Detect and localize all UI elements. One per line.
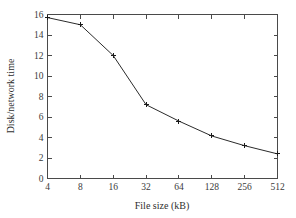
x-tick-label: 8 xyxy=(78,182,83,192)
y-tick-label: 14 xyxy=(34,30,44,40)
data-line xyxy=(48,18,278,154)
x-tick-label: 128 xyxy=(205,182,220,192)
y-tick-label: 10 xyxy=(34,71,44,81)
y-tick-label: 2 xyxy=(39,153,44,163)
y-tick-label: 12 xyxy=(34,51,44,61)
y-tick-label: 4 xyxy=(39,133,44,143)
x-tick-label: 16 xyxy=(108,182,118,192)
y-tick-label: 0 xyxy=(39,174,44,184)
plot-frame xyxy=(48,15,278,179)
x-axis-ticks xyxy=(48,15,278,179)
data-series-group xyxy=(48,18,278,154)
chart-page: 48163264128256512 0246810121416 File siz… xyxy=(0,0,296,218)
line-chart: 48163264128256512 0246810121416 File siz… xyxy=(0,0,296,218)
y-axis-tick-labels: 0246810121416 xyxy=(34,10,44,184)
y-tick-label: 8 xyxy=(39,92,44,102)
plot-box xyxy=(48,15,278,179)
y-tick-label: 6 xyxy=(39,112,44,122)
y-tick-label: 16 xyxy=(34,10,44,20)
x-tick-label: 256 xyxy=(238,182,253,192)
x-axis-tick-labels: 48163264128256512 xyxy=(45,182,285,192)
data-point-marker xyxy=(176,119,181,124)
data-point-markers xyxy=(45,15,280,156)
data-point-marker xyxy=(275,151,280,156)
y-axis-title: Disk/network time xyxy=(5,58,16,133)
data-point-marker xyxy=(45,15,50,20)
x-tick-label: 32 xyxy=(141,182,151,192)
y-axis-ticks xyxy=(48,15,278,179)
x-tick-label: 64 xyxy=(174,182,184,192)
x-tick-label: 512 xyxy=(270,182,285,192)
data-point-marker xyxy=(209,133,214,138)
x-tick-label: 4 xyxy=(45,182,50,192)
x-axis-title: File size (kB) xyxy=(135,200,189,212)
data-point-marker xyxy=(242,143,247,148)
